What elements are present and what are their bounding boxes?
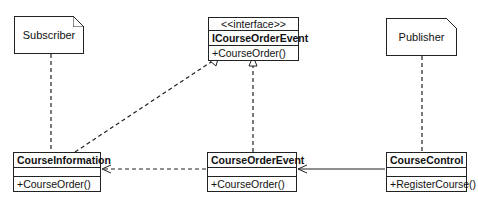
course-control-attributes bbox=[387, 167, 466, 176]
course-order-event-operation: +CourseOrder() bbox=[208, 176, 296, 191]
folded-corner-icon bbox=[446, 18, 457, 29]
course-control-name: CourseControl bbox=[387, 153, 466, 167]
course-order-event-class-box[interactable]: CourseOrderEvent +CourseOrder() bbox=[207, 152, 297, 192]
course-control-operation: +RegisterCourse() bbox=[387, 176, 466, 191]
subscriber-label: Subscriber bbox=[23, 29, 76, 41]
course-information-operation: +CourseOrder() bbox=[14, 176, 100, 191]
realization-line-info bbox=[75, 60, 214, 152]
interface-operation: +CourseOrder() bbox=[209, 45, 298, 60]
interface-class-box[interactable]: <<interface>> ICourseOrderEvent +CourseO… bbox=[208, 17, 299, 61]
course-control-class-box[interactable]: CourseControl +RegisterCourse() bbox=[386, 152, 467, 192]
publisher-label: Publisher bbox=[399, 31, 445, 43]
course-information-attributes bbox=[14, 167, 100, 176]
course-information-class-box[interactable]: CourseInformation +CourseOrder() bbox=[13, 152, 101, 192]
interface-stereotype: <<interface>> bbox=[209, 18, 298, 30]
interface-name: ICourseOrderEvent bbox=[209, 30, 298, 45]
course-order-event-attributes bbox=[208, 167, 296, 176]
course-order-event-name: CourseOrderEvent bbox=[208, 153, 296, 167]
course-information-name: CourseInformation bbox=[14, 153, 100, 167]
publisher-note[interactable]: Publisher bbox=[386, 18, 457, 56]
folded-corner-icon bbox=[73, 16, 84, 27]
subscriber-note[interactable]: Subscriber bbox=[14, 16, 84, 54]
